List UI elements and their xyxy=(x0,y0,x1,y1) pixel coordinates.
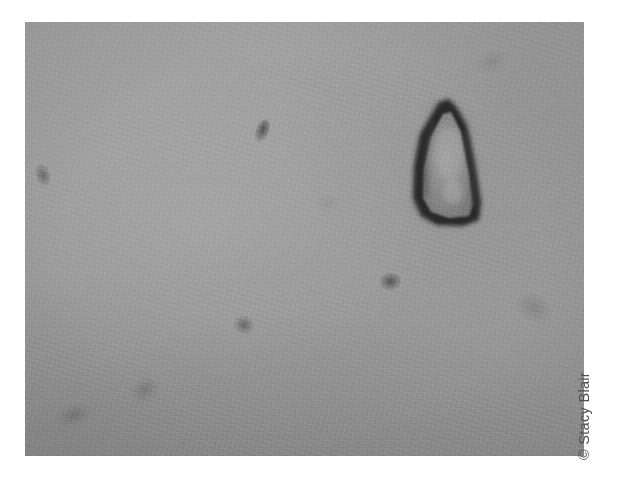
photo-credit-text: © Stacy Blair xyxy=(576,372,592,460)
photo-credit-container: © Stacy Blair xyxy=(592,300,612,460)
angular-grain-particle xyxy=(393,80,513,240)
figure-root: © Stacy Blair xyxy=(0,0,630,478)
photomicrograph-image xyxy=(25,22,584,456)
